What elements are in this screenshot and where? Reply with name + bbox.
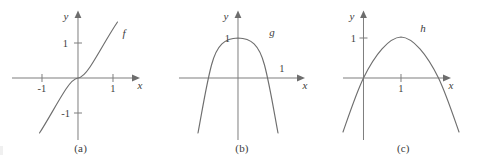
x-tick-label-1: 1	[280, 63, 285, 74]
x-tick-label-neg1: -1	[38, 83, 47, 94]
panel-c: y x 1 1 h (c)	[323, 0, 484, 167]
left-edge-artifact	[0, 146, 3, 155]
x-axis-label: x	[302, 79, 308, 91]
y-tick-label-1: 1	[225, 33, 230, 44]
curve-label-g: g	[270, 26, 276, 38]
y-axis-arrow-icon	[235, 11, 242, 19]
panel-a: y x -1 1 1 -1 f (a)	[0, 0, 161, 167]
y-axis-arrow-icon	[360, 11, 367, 19]
panel-caption-b: (b)	[161, 142, 322, 154]
y-axis-arrow-icon	[75, 11, 82, 19]
figure-three-panel-graphs: y x -1 1 1 -1 f (a) y x 1 1 g (b)	[0, 0, 484, 167]
y-tick-label-neg1: -1	[61, 108, 70, 119]
panel-b: y x 1 1 g (b)	[161, 0, 322, 167]
x-axis-label: x	[447, 79, 453, 91]
y-tick-label-1: 1	[350, 33, 355, 44]
x-tick-label-1: 1	[110, 83, 115, 94]
x-axis-label: x	[137, 79, 143, 91]
y-tick-label-1: 1	[63, 38, 68, 49]
y-axis-label: y	[63, 10, 69, 22]
y-axis-label: y	[348, 10, 354, 22]
curve-label-h: h	[420, 22, 426, 34]
curve-label-f: f	[122, 27, 127, 39]
panel-caption-a: (a)	[0, 142, 161, 154]
y-axis-label: y	[223, 10, 229, 22]
x-tick-label-1: 1	[398, 83, 403, 94]
panel-caption-c: (c)	[323, 142, 484, 154]
